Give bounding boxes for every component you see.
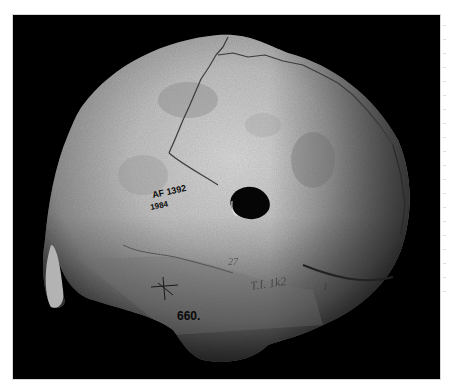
skull-photograph: AF 1392 1984 660. 27 T.I. 1k2 1 [13, 15, 440, 379]
page-edge-marks [443, 25, 446, 305]
skull-illustration: AF 1392 1984 660. 27 T.I. 1k2 1 [13, 15, 440, 379]
inscription-c: 1 [323, 281, 328, 292]
specimen-number: 660. [177, 309, 200, 323]
skull-body [13, 15, 440, 379]
inscription-a: 27 [228, 256, 239, 267]
